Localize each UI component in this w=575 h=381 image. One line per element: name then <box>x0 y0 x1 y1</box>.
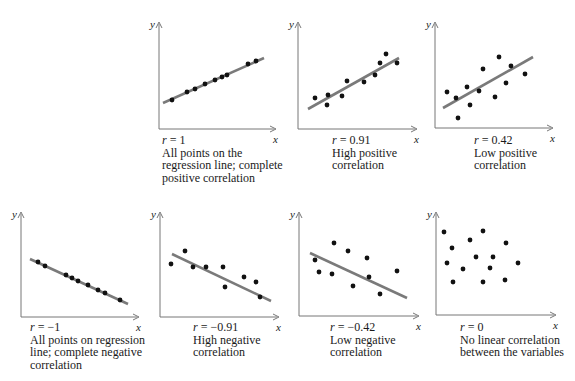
data-point <box>516 261 521 266</box>
data-point <box>351 284 356 289</box>
y-axis-label: y <box>288 18 294 30</box>
data-point <box>325 103 330 108</box>
data-point <box>384 52 389 57</box>
data-point <box>36 260 41 265</box>
data-point <box>509 64 514 69</box>
x-axis-label: x <box>549 132 555 144</box>
data-point <box>481 229 486 234</box>
data-point <box>488 266 493 271</box>
data-point <box>225 73 230 78</box>
data-point <box>96 288 101 293</box>
data-point <box>503 278 508 283</box>
data-point <box>326 93 331 98</box>
data-point <box>481 280 486 285</box>
data-point <box>204 265 209 270</box>
data-point <box>445 90 450 95</box>
data-point <box>43 264 48 269</box>
caption-p1: r = 1All points on theregression line; c… <box>162 134 283 184</box>
data-point <box>169 262 174 267</box>
data-point <box>70 276 75 281</box>
data-point <box>504 81 509 86</box>
data-point <box>450 246 455 251</box>
regression-line <box>308 58 399 109</box>
correlation-coefficient: r = 0.42 <box>474 134 537 147</box>
correlation-coefficient: r = −0.91 <box>193 321 261 334</box>
data-point <box>191 265 196 270</box>
data-point <box>330 272 335 277</box>
data-point <box>468 238 473 243</box>
data-point <box>454 96 459 101</box>
scatter-plot-p1: yx <box>149 18 278 145</box>
data-point <box>332 241 337 246</box>
data-point <box>362 80 367 85</box>
data-point <box>442 230 447 235</box>
data-point <box>313 96 318 101</box>
data-point <box>242 275 247 280</box>
data-point <box>378 292 383 297</box>
caption-description-line: correlation <box>193 346 261 359</box>
data-point <box>317 270 322 275</box>
data-point <box>118 298 123 303</box>
y-axis-label: y <box>426 208 432 220</box>
y-axis-label: y <box>289 208 295 220</box>
data-point <box>220 75 225 80</box>
caption-p7: r = 0No linear correlationbetween the va… <box>460 321 564 359</box>
correlation-coefficient: r = −1 <box>30 321 145 334</box>
regression-line <box>172 254 271 301</box>
correlation-coefficient: r = 1 <box>162 134 283 147</box>
data-point <box>223 285 228 290</box>
data-point <box>213 78 218 83</box>
x-axis-label: x <box>413 133 419 145</box>
caption-description-line: correlation <box>30 359 145 372</box>
data-point <box>86 283 91 288</box>
data-point <box>504 241 509 246</box>
caption-description-line: correlation <box>332 159 397 172</box>
data-point <box>76 279 81 284</box>
data-point <box>203 82 208 87</box>
data-point <box>313 258 318 263</box>
caption-p3: r = 0.42Low positivecorrelation <box>474 134 537 172</box>
y-axis-label: y <box>11 208 17 220</box>
data-point <box>365 256 370 261</box>
data-point <box>103 291 108 296</box>
scatter-plot-p6: yx <box>289 208 421 332</box>
data-point <box>254 59 259 64</box>
x-axis-label: x <box>275 321 281 333</box>
y-axis-label: y <box>149 18 155 30</box>
data-point <box>456 116 461 121</box>
data-point <box>395 269 400 274</box>
data-point <box>445 261 450 266</box>
data-point <box>395 61 400 66</box>
scatter-plot-p5: yx <box>150 208 281 333</box>
data-point <box>474 255 479 260</box>
data-point <box>340 94 345 99</box>
scatter-plot-p4: yx <box>11 208 141 333</box>
data-point <box>378 61 383 66</box>
scatter-plot-p3: yx <box>425 18 555 144</box>
data-point <box>221 265 226 270</box>
data-point <box>170 98 175 103</box>
data-point <box>246 62 251 67</box>
data-point <box>254 280 259 285</box>
data-point <box>493 95 498 100</box>
data-point <box>258 295 263 300</box>
data-point <box>465 85 470 90</box>
x-axis-label: x <box>415 320 421 332</box>
data-point <box>497 55 502 60</box>
regression-line <box>443 57 533 108</box>
data-point <box>346 249 351 254</box>
caption-description-line: regression line; complete <box>162 159 283 172</box>
caption-p6: r = −0.42Low negativecorrelation <box>330 321 396 359</box>
data-point <box>183 249 188 254</box>
data-point <box>477 89 482 94</box>
y-axis-label: y <box>425 18 431 30</box>
data-point <box>461 267 466 272</box>
y-axis-label: y <box>150 208 156 220</box>
caption-p5: r = −0.91High negativecorrelation <box>193 321 261 359</box>
caption-p4: r = −1All points on regressionline; comp… <box>30 321 145 371</box>
caption-description-line: line; complete negative <box>30 346 145 359</box>
caption-description-line: correlation <box>474 159 537 172</box>
data-point <box>193 87 198 92</box>
data-point <box>373 73 378 78</box>
caption-description-line: between the variables <box>460 346 564 359</box>
